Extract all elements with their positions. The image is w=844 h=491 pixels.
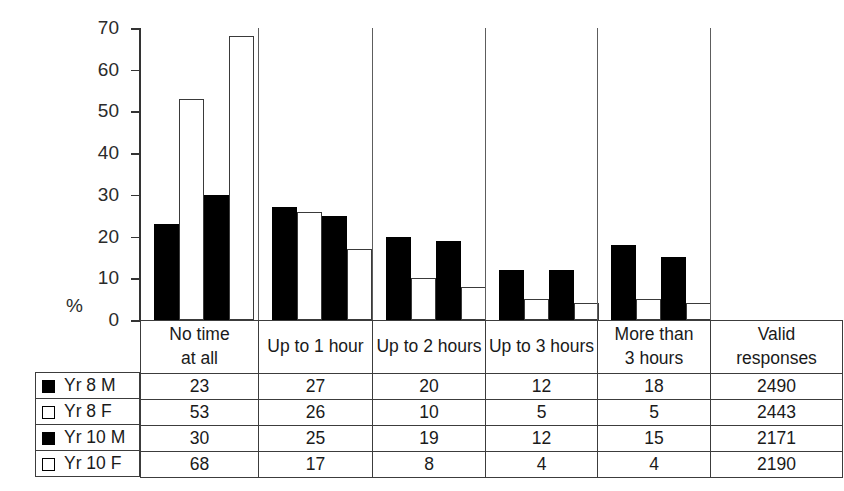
- y-axis-tick-mark: [131, 111, 140, 113]
- bar: [229, 36, 254, 320]
- bar: [179, 99, 204, 320]
- bar: [386, 237, 411, 320]
- y-axis-tick-label: 70: [29, 17, 119, 39]
- bar: [499, 270, 524, 320]
- bar-group: [140, 28, 258, 320]
- header-line: More than: [598, 323, 710, 347]
- y-axis-tick-label: 50: [29, 100, 119, 122]
- table-column-header: No timeat all: [141, 321, 259, 374]
- legend-swatch-icon: [42, 432, 55, 445]
- table-cell: 18: [598, 374, 711, 400]
- bar-group-separator: [597, 28, 598, 320]
- y-axis-tick-label: 40: [29, 142, 119, 164]
- bar: [347, 249, 372, 320]
- legend-swatch-icon: [42, 458, 55, 471]
- bar-chart-figure: 706050403020100 % Yr 8 MYr 8 FYr 10 MYr …: [0, 0, 844, 491]
- table-cell: 4: [486, 452, 598, 478]
- bar: [154, 224, 179, 320]
- bar: [524, 299, 549, 320]
- table-cell: 12: [486, 374, 598, 400]
- header-line: Valid: [711, 323, 842, 347]
- table-cell: 53: [141, 400, 259, 426]
- bar: [204, 195, 229, 320]
- legend-row: Yr 10 M: [36, 425, 140, 451]
- bar: [611, 245, 636, 320]
- table-cell: 23: [141, 374, 259, 400]
- table-row: 68178442190: [141, 452, 843, 478]
- legend-entry: Yr 8 F: [36, 399, 140, 425]
- legend-entry: Yr 10 M: [36, 425, 140, 451]
- table-row: 30251912152171: [141, 426, 843, 452]
- table-cell: 20: [373, 374, 486, 400]
- header-line: Up to 1 hour: [259, 335, 372, 359]
- bar: [549, 270, 574, 320]
- table-header-row: No timeat allUp to 1 hourUp to 2 hoursUp…: [141, 321, 843, 374]
- table-row: 23272012182490: [141, 374, 843, 400]
- header-line: Up to 2 hours: [373, 335, 485, 359]
- table-cell: 2171: [711, 426, 843, 452]
- y-axis-tick-mark: [131, 320, 140, 322]
- y-axis-tick-mark: [131, 28, 140, 30]
- bar: [297, 212, 322, 320]
- table-cell: 25: [259, 426, 373, 452]
- table-row: 532610552443: [141, 400, 843, 426]
- table-cell: 19: [373, 426, 486, 452]
- y-axis-tick-label: 30: [29, 184, 119, 206]
- y-axis-unit-label: %: [66, 295, 83, 317]
- bar-group-separator: [485, 28, 486, 320]
- y-axis-tick-mark: [131, 70, 140, 72]
- header-line: responses: [711, 347, 842, 371]
- y-axis-tick-label: 20: [29, 226, 119, 248]
- bar-group: [372, 28, 485, 320]
- legend-label: Yr 10 F: [64, 453, 121, 474]
- legend-entry: Yr 8 M: [36, 373, 140, 399]
- table-cell: 4: [598, 452, 711, 478]
- table-cell: 17: [259, 452, 373, 478]
- bar: [436, 241, 461, 320]
- legend-row: Yr 8 M: [36, 373, 140, 399]
- bar: [411, 278, 436, 320]
- table-cell: 68: [141, 452, 259, 478]
- bar-group: [485, 28, 597, 320]
- y-axis-tick-label: 10: [29, 267, 119, 289]
- header-line: at all: [141, 347, 258, 371]
- legend-label: Yr 8 F: [64, 401, 112, 422]
- table-cell: 12: [486, 426, 598, 452]
- bar-group-separator: [372, 28, 373, 320]
- y-axis-tick-mark: [131, 195, 140, 197]
- table-cell: 5: [486, 400, 598, 426]
- plot-area: [140, 28, 844, 320]
- table-cell: 26: [259, 400, 373, 426]
- table-cell: 2443: [711, 400, 843, 426]
- legend-label: Yr 8 M: [64, 375, 116, 396]
- bar: [574, 303, 599, 320]
- table-cell: 2490: [711, 374, 843, 400]
- bar-group-separator: [258, 28, 259, 320]
- table-column-header: More than3 hours: [598, 321, 711, 374]
- bar-group-separator: [710, 28, 711, 320]
- legend-label: Yr 10 M: [64, 427, 125, 448]
- bar: [461, 287, 486, 320]
- legend-row: Yr 8 F: [36, 399, 140, 425]
- y-axis-tick-mark: [131, 278, 140, 280]
- table-column-header: Up to 3 hours: [486, 321, 598, 374]
- bar: [322, 216, 347, 320]
- table-cell: 27: [259, 374, 373, 400]
- table-column-header: Up to 2 hours: [373, 321, 486, 374]
- table-cell: 15: [598, 426, 711, 452]
- header-line: Up to 3 hours: [486, 335, 597, 359]
- table-cell: 2190: [711, 452, 843, 478]
- legend-row: Yr 10 F: [36, 451, 140, 477]
- bar: [636, 299, 661, 320]
- legend-swatch-icon: [42, 406, 55, 419]
- data-table: No timeat allUp to 1 hourUp to 2 hoursUp…: [140, 320, 843, 478]
- table-cell: 5: [598, 400, 711, 426]
- table-column-header: Validresponses: [711, 321, 843, 374]
- series-legend: Yr 8 MYr 8 FYr 10 MYr 10 F: [35, 372, 140, 477]
- bar-group: [597, 28, 710, 320]
- bar-group: [258, 28, 372, 320]
- y-axis-tick-mark: [131, 237, 140, 239]
- y-axis-tick-mark: [131, 153, 140, 155]
- header-line: No time: [141, 323, 258, 347]
- legend-entry: Yr 10 F: [36, 451, 140, 477]
